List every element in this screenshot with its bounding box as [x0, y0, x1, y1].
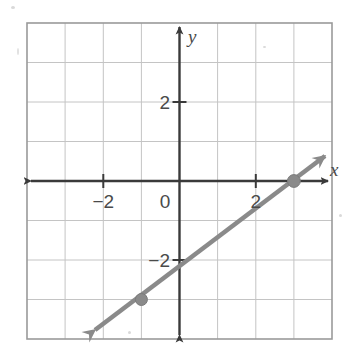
data-point	[288, 175, 301, 188]
coordinate-plane-figure: −2 0 2 2 −2 y x	[0, 0, 350, 355]
origin-label: 0	[160, 191, 171, 212]
scan-speck	[17, 48, 19, 55]
x-axis-label: x	[329, 159, 339, 180]
x-tick-label-positive-2: 2	[251, 191, 262, 212]
graph-canvas: −2 0 2 2 −2 y x	[0, 0, 350, 355]
scan-speck	[339, 214, 342, 217]
scan-speck	[11, 6, 15, 9]
y-axis-label: y	[186, 26, 197, 47]
scan-speck	[128, 331, 131, 334]
x-tick-label-negative-2: −2	[92, 191, 114, 212]
scan-speck	[263, 46, 266, 48]
data-point	[135, 294, 147, 306]
y-tick-label-negative-2: −2	[148, 250, 170, 271]
y-tick-label-positive-2: 2	[159, 92, 170, 113]
